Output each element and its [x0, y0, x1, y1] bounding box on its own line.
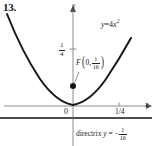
directrix-denominator: 16: [119, 135, 127, 142]
y-tick-fraction: 1 4: [59, 42, 65, 58]
parabola-figure: 13. y=4x2 y x 0 1/4: [0, 0, 152, 146]
y-axis-label: y: [72, 2, 75, 10]
y-axis: [70, 5, 77, 146]
directrix-word: directrix: [76, 129, 101, 138]
focus-y-denominator: 16: [92, 64, 100, 71]
focus-label: F(0, 1 16 ): [76, 56, 105, 70]
parabola-plot: [0, 0, 152, 146]
focus-y-numerator: 1: [92, 56, 100, 64]
focus-name: F: [76, 58, 81, 67]
focus-leader-line: [75, 72, 80, 83]
directrix-numerator: 1: [119, 127, 127, 135]
y-tick-denominator: 4: [59, 51, 65, 59]
directrix-fraction: 1 16: [119, 127, 127, 141]
y-tick-label-quarter: 1 4: [59, 42, 65, 58]
directrix-equals: = −: [109, 129, 119, 138]
directrix-label: directrix y = − 1 16: [76, 127, 127, 141]
curve-equation-exponent: 2: [117, 18, 120, 24]
directrix-variable: y: [103, 129, 106, 138]
x-axis-label: x: [145, 101, 148, 109]
curve-equation-label: y=4x2: [101, 19, 119, 29]
x-tick-label-quarter: 1/4: [115, 108, 125, 116]
focus-point: [70, 83, 76, 89]
origin-label: 0: [64, 108, 68, 116]
focus-y-fraction: 1 16: [92, 56, 100, 70]
